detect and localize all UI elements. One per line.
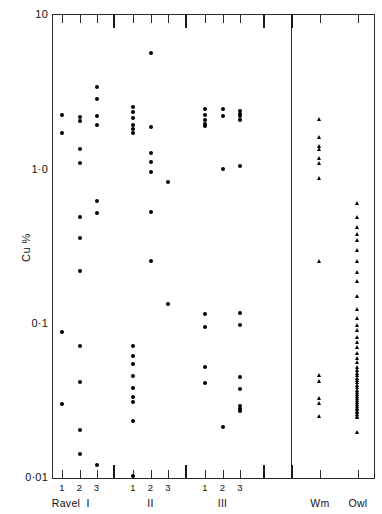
bottom-axis-tick — [113, 465, 115, 478]
data-point-triangle — [355, 415, 359, 419]
data-point-circle — [238, 375, 242, 379]
data-point-triangle — [355, 225, 359, 229]
data-point-circle — [131, 386, 135, 390]
x-tick-label: 3 — [85, 482, 109, 493]
data-point-circle — [166, 302, 170, 306]
data-point-triangle — [317, 373, 321, 377]
data-point-circle — [203, 381, 207, 385]
bottom-axis-tick — [97, 470, 98, 478]
data-point-circle — [238, 311, 242, 315]
data-point-triangle — [355, 345, 359, 349]
bottom-axis-tick — [320, 470, 321, 478]
data-point-circle — [78, 119, 82, 123]
data-point-circle — [131, 131, 135, 135]
data-point-triangle — [355, 430, 359, 434]
x-tick-label: 3 — [156, 482, 180, 493]
top-axis-tick — [185, 15, 187, 28]
data-point-triangle — [317, 161, 321, 165]
data-point-circle — [60, 131, 64, 135]
top-axis-tick — [320, 15, 321, 23]
data-point-circle — [78, 236, 82, 240]
data-point-triangle — [317, 379, 321, 383]
top-axis-tick — [151, 15, 152, 23]
y-tick-label-0-1: 0·1 — [8, 317, 48, 329]
data-point-triangle — [355, 270, 359, 274]
data-point-triangle — [355, 215, 359, 219]
data-point-triangle — [355, 323, 359, 327]
bottom-axis-tick — [62, 470, 63, 478]
data-point-triangle — [317, 259, 321, 263]
data-point-circle — [78, 380, 82, 384]
data-point-circle — [221, 425, 225, 429]
x-group-label-owl: Owl — [330, 497, 382, 509]
data-point-circle — [203, 365, 207, 369]
data-point-circle — [238, 409, 242, 413]
x-group-label-ii: II — [123, 497, 179, 509]
top-axis-tick — [133, 15, 134, 23]
data-point-triangle — [317, 401, 321, 405]
data-point-circle — [78, 428, 82, 432]
data-point-circle — [95, 123, 99, 127]
top-axis-tick — [358, 15, 359, 23]
bottom-axis-tick — [291, 465, 293, 478]
data-point-circle — [78, 452, 82, 456]
data-point-circle — [131, 344, 135, 348]
scatter-chart-figure: 10 1·0 0·1 0·01 Cu % 123123123RavelIIIII… — [0, 0, 382, 514]
data-point-circle — [131, 354, 135, 358]
data-point-triangle — [317, 176, 321, 180]
y-tick-label-0-01: 0·01 — [2, 471, 48, 483]
data-point-circle — [78, 269, 82, 273]
data-point-circle — [131, 116, 135, 120]
data-point-circle — [166, 180, 170, 184]
data-point-circle — [131, 419, 135, 423]
data-point-triangle — [355, 294, 359, 298]
data-point-circle — [149, 125, 153, 129]
x-axis-line-bottom — [52, 478, 375, 479]
data-point-triangle — [317, 147, 321, 151]
top-axis-tick — [263, 15, 265, 28]
data-point-circle — [203, 325, 207, 329]
data-point-circle — [149, 151, 153, 155]
data-point-triangle — [355, 279, 359, 283]
y-tick-label-10: 10 — [8, 8, 48, 20]
data-point-triangle — [355, 238, 359, 242]
data-point-triangle — [355, 316, 359, 320]
data-point-triangle — [355, 335, 359, 339]
data-point-circle — [78, 147, 82, 151]
data-point-triangle — [355, 307, 359, 311]
data-point-circle — [131, 474, 135, 478]
data-point-circle — [131, 395, 135, 399]
y-tick-label-1: 1·0 — [8, 163, 48, 175]
data-point-triangle — [355, 201, 359, 205]
data-point-circle — [149, 160, 153, 164]
y-axis-title: Cu % — [20, 233, 32, 262]
top-axis-tick — [80, 15, 81, 23]
data-point-circle — [60, 330, 64, 334]
bottom-axis-tick — [223, 470, 224, 478]
bottom-axis-tick — [358, 470, 359, 478]
data-point-triangle — [355, 360, 359, 364]
panel-separator-line — [291, 14, 292, 479]
data-point-circle — [221, 167, 225, 171]
data-point-circle — [203, 107, 207, 111]
data-point-triangle — [355, 248, 359, 252]
data-point-circle — [95, 199, 99, 203]
data-point-triangle — [355, 340, 359, 344]
data-point-circle — [238, 118, 242, 122]
top-axis-tick — [223, 15, 224, 23]
data-point-circle — [95, 97, 99, 101]
data-point-circle — [203, 312, 207, 316]
data-point-circle — [95, 463, 99, 467]
data-point-circle — [60, 402, 64, 406]
data-point-circle — [131, 105, 135, 109]
data-point-circle — [78, 215, 82, 219]
data-point-circle — [131, 400, 135, 404]
data-point-circle — [131, 374, 135, 378]
right-border-line — [374, 14, 375, 479]
top-axis-tick — [291, 15, 293, 28]
y-axis-line — [52, 14, 53, 479]
data-point-circle — [149, 259, 153, 263]
x-axis-line-top — [52, 14, 375, 15]
data-point-circle — [131, 362, 135, 366]
data-point-circle — [149, 51, 153, 55]
